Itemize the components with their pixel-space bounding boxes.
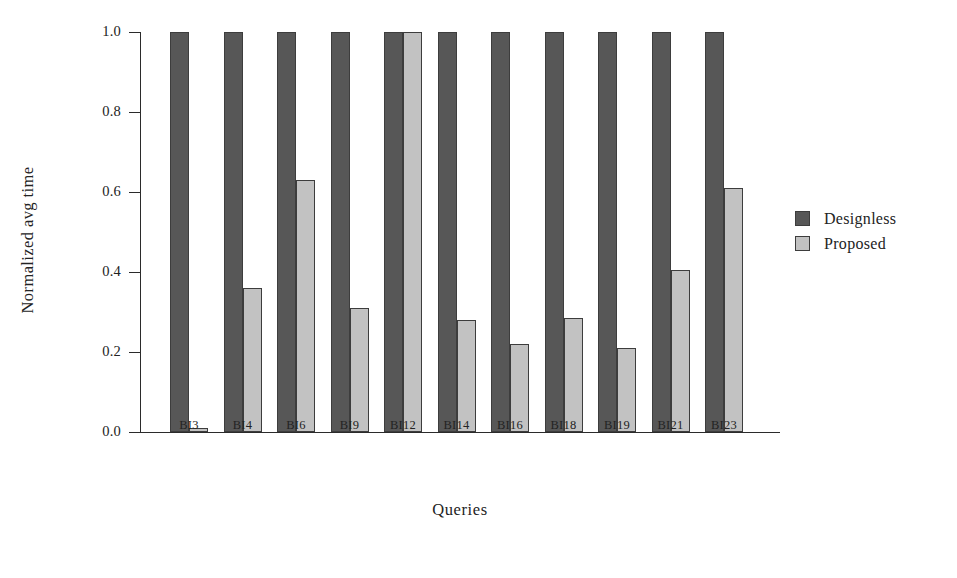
bar-proposed-bi12 <box>403 32 422 432</box>
bar-group <box>545 32 583 432</box>
y-axis-tick-label: 1.0 <box>102 23 121 40</box>
bar-proposed-bi9 <box>350 308 369 432</box>
bar-group <box>170 32 208 432</box>
bar-proposed-bi14 <box>457 320 476 432</box>
bar-group <box>652 32 690 432</box>
bar-proposed-bi18 <box>564 318 583 432</box>
bar-proposed-bi21 <box>671 270 690 432</box>
bar-designless-bi4 <box>224 32 243 432</box>
bar-designless-bi16 <box>491 32 510 432</box>
y-axis-title: Normalized avg time <box>18 120 38 360</box>
bar-designless-bi3 <box>170 32 189 432</box>
bar-designless-bi23 <box>705 32 724 432</box>
bar-proposed-bi4 <box>243 288 262 432</box>
legend-swatch-icon <box>795 211 810 226</box>
legend-item: Designless <box>795 206 896 231</box>
bar-designless-bi18 <box>545 32 564 432</box>
bar-designless-bi14 <box>438 32 457 432</box>
bar-chart-figure: Normalized avg time 1.00.80.60.40.20.0 B… <box>0 0 957 578</box>
y-axis-tick: 0.0 <box>129 432 140 433</box>
y-axis-tick: 0.4 <box>129 272 140 273</box>
bar-group <box>705 32 743 432</box>
bar-group <box>384 32 422 432</box>
bar-proposed-bi23 <box>724 188 743 432</box>
x-axis-label-bi23: BI23 <box>689 418 759 433</box>
legend-label: Designless <box>824 210 896 228</box>
y-axis-line <box>140 32 141 432</box>
bar-designless-bi12 <box>384 32 403 432</box>
y-axis-tick-label: 0.0 <box>102 423 121 440</box>
legend-item: Proposed <box>795 231 896 256</box>
bar-group <box>598 32 636 432</box>
y-axis-tick-label: 0.8 <box>102 103 121 120</box>
y-axis-tick-label: 0.2 <box>102 343 121 360</box>
y-axis-tick: 0.8 <box>129 112 140 113</box>
y-axis-tick: 0.2 <box>129 352 140 353</box>
y-axis-tick-label: 0.6 <box>102 183 121 200</box>
bar-group <box>224 32 262 432</box>
legend-swatch-icon <box>795 236 810 251</box>
bar-proposed-bi6 <box>296 180 315 432</box>
y-axis-tick: 1.0 <box>129 32 140 33</box>
bar-group <box>277 32 315 432</box>
bar-group <box>331 32 369 432</box>
bar-designless-bi9 <box>331 32 350 432</box>
y-axis-tick-label: 0.4 <box>102 263 121 280</box>
plot-area: 1.00.80.60.40.20.0 <box>140 32 780 432</box>
bar-group <box>491 32 529 432</box>
chart-legend: DesignlessProposed <box>795 206 896 256</box>
bar-group <box>438 32 476 432</box>
bar-designless-bi19 <box>598 32 617 432</box>
bar-designless-bi21 <box>652 32 671 432</box>
x-axis-title: Queries <box>140 500 780 520</box>
y-axis-tick: 0.6 <box>129 192 140 193</box>
legend-label: Proposed <box>824 235 886 253</box>
bar-designless-bi6 <box>277 32 296 432</box>
